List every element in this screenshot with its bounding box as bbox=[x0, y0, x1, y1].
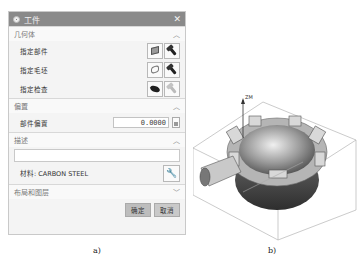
display-check-button[interactable] bbox=[164, 81, 180, 97]
gear-icon[interactable] bbox=[13, 16, 20, 23]
part-cube-icon bbox=[151, 46, 159, 55]
material-button[interactable]: 🔧 bbox=[163, 165, 180, 182]
flashlight-icon bbox=[168, 65, 177, 75]
cancel-button[interactable]: 取消 bbox=[154, 203, 180, 217]
geometry-group-header[interactable]: 几何体 ︿ bbox=[9, 26, 185, 41]
display-blank-button[interactable] bbox=[164, 62, 180, 78]
offset-group-header[interactable]: 偏置 ︿ bbox=[9, 98, 185, 113]
part-offset-label: 部件偏置 bbox=[20, 118, 48, 128]
specify-part-row: 指定部件 bbox=[9, 41, 185, 60]
description-group-title: 描述 bbox=[14, 135, 28, 145]
select-check-button[interactable] bbox=[147, 81, 163, 97]
workpiece-3d-model: ZM bbox=[193, 90, 357, 245]
select-part-button[interactable] bbox=[147, 43, 163, 59]
specify-check-row: 指定检查 bbox=[9, 79, 185, 98]
select-blank-button[interactable] bbox=[147, 62, 163, 78]
chevron-down-icon[interactable]: ﹀ bbox=[173, 187, 180, 197]
dialog-title: 工件 bbox=[24, 14, 173, 25]
close-icon[interactable]: ✕ bbox=[173, 14, 181, 24]
ok-button[interactable]: 确定 bbox=[125, 203, 151, 217]
chevron-up-icon[interactable]: ︿ bbox=[173, 135, 180, 145]
display-part-button[interactable] bbox=[164, 43, 180, 59]
part-offset-input[interactable]: 0.0000 bbox=[113, 117, 169, 128]
layout-group-title: 布局和图层 bbox=[14, 187, 49, 197]
side-port bbox=[200, 156, 241, 186]
blank-wire-cube-icon bbox=[151, 65, 159, 74]
lock-icon[interactable] bbox=[172, 117, 180, 128]
chevron-up-icon[interactable]: ︿ bbox=[173, 101, 180, 111]
specify-blank-row: 指定毛坯 bbox=[9, 60, 185, 79]
specify-part-label: 指定部件 bbox=[20, 46, 48, 56]
geometry-group-title: 几何体 bbox=[14, 29, 35, 39]
caption-a: a) bbox=[93, 246, 101, 255]
dialog-titlebar[interactable]: 工件 ✕ bbox=[9, 12, 185, 26]
description-input[interactable] bbox=[14, 149, 180, 162]
check-solid-icon bbox=[149, 84, 160, 93]
material-label: 材料: CARBON STEEL bbox=[20, 168, 88, 178]
caption-b: b) bbox=[268, 246, 276, 255]
chevron-up-icon[interactable]: ︿ bbox=[173, 29, 180, 39]
svg-text:ZM: ZM bbox=[245, 94, 253, 100]
material-row: 材料: CARBON STEEL 🔧 bbox=[9, 162, 185, 184]
flashlight-icon bbox=[168, 46, 177, 56]
description-group-header[interactable]: 描述 ︿ bbox=[9, 132, 185, 147]
specify-blank-label: 指定毛坯 bbox=[20, 65, 48, 75]
layout-group-header[interactable]: 布局和图层 ﹀ bbox=[9, 184, 185, 199]
flashlight-disabled-icon bbox=[168, 84, 177, 94]
wrench-icon: 🔧 bbox=[166, 168, 177, 178]
workpiece-dialog: 工件 ✕ 几何体 ︿ 指定部件 指定毛坯 指定检查 偏置 ︿ 部件偏置 0.00… bbox=[8, 11, 186, 235]
offset-group-title: 偏置 bbox=[14, 101, 28, 111]
dialog-footer: 确定 取消 bbox=[9, 199, 185, 217]
specify-check-label: 指定检查 bbox=[20, 84, 48, 94]
part-offset-row: 部件偏置 0.0000 bbox=[9, 113, 185, 132]
